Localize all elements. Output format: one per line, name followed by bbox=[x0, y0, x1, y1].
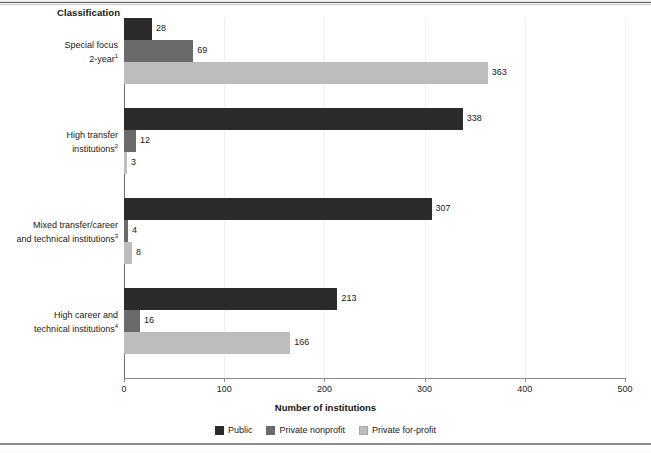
bar-private-nonprofit-0 bbox=[124, 40, 193, 62]
x-axis-tick-label: 0 bbox=[121, 384, 126, 394]
gridline bbox=[625, 18, 626, 378]
bar-private-nonprofit-3 bbox=[124, 310, 140, 332]
chart-legend: PublicPrivate nonprofitPrivate for-profi… bbox=[0, 425, 651, 435]
bar-value-label: 8 bbox=[136, 247, 141, 257]
gridline bbox=[525, 18, 526, 378]
bar-public-2 bbox=[124, 198, 432, 220]
bar-public-3 bbox=[124, 288, 337, 310]
top-rule bbox=[0, 2, 651, 3]
bar-value-label: 69 bbox=[197, 45, 207, 55]
legend-swatch-icon bbox=[359, 426, 368, 435]
bar-private-for-profit-2 bbox=[124, 242, 132, 264]
legend-swatch-icon bbox=[215, 426, 224, 435]
bar-value-label: 4 bbox=[132, 225, 137, 235]
bar-value-label: 12 bbox=[140, 135, 150, 145]
x-axis-tick-label: 400 bbox=[517, 384, 532, 394]
legend-label: Private nonprofit bbox=[279, 425, 345, 435]
x-axis-title: Number of institutions bbox=[0, 402, 651, 413]
bar-value-label: 213 bbox=[341, 293, 356, 303]
category-label-group: Special focus2-year1High transferinstitu… bbox=[0, 18, 118, 378]
legend-item-private-for-profit[interactable]: Private for-profit bbox=[359, 425, 436, 435]
bar-public-0 bbox=[124, 18, 152, 40]
bottom-rule bbox=[0, 443, 651, 445]
legend-label: Public bbox=[228, 425, 253, 435]
legend-item-public[interactable]: Public bbox=[215, 425, 253, 435]
bar-private-for-profit-1 bbox=[124, 152, 127, 174]
bar-public-1 bbox=[124, 108, 463, 130]
bar-private-for-profit-3 bbox=[124, 332, 290, 354]
category-label-1: High transferinstitutions2 bbox=[66, 130, 118, 154]
x-axis-tick bbox=[625, 378, 626, 382]
x-axis-line bbox=[124, 378, 626, 379]
classification-axis-title: Classification bbox=[57, 7, 120, 18]
x-axis-tick-label: 200 bbox=[317, 384, 332, 394]
x-axis-tick bbox=[124, 378, 125, 382]
x-axis-tick-label: 500 bbox=[617, 384, 632, 394]
x-axis-tick-label: 100 bbox=[217, 384, 232, 394]
legend-item-private-nonprofit[interactable]: Private nonprofit bbox=[266, 425, 345, 435]
bar-value-label: 338 bbox=[467, 113, 482, 123]
bottom-clip-band bbox=[0, 447, 651, 453]
bar-value-label: 307 bbox=[436, 203, 451, 213]
bar-private-for-profit-0 bbox=[124, 62, 488, 84]
legend-label: Private for-profit bbox=[372, 425, 436, 435]
bar-private-nonprofit-2 bbox=[124, 220, 128, 242]
x-axis-tick bbox=[324, 378, 325, 382]
x-axis-tick bbox=[224, 378, 225, 382]
x-axis-tick bbox=[525, 378, 526, 382]
bar-value-label: 363 bbox=[492, 67, 507, 77]
category-label-0: Special focus2-year1 bbox=[64, 40, 118, 64]
category-label-3: High career andtechnical institutions4 bbox=[34, 310, 118, 334]
bar-private-nonprofit-1 bbox=[124, 130, 136, 152]
bar-value-label: 3 bbox=[131, 157, 136, 167]
bar-value-label: 166 bbox=[294, 337, 309, 347]
x-axis-tick-label: 300 bbox=[417, 384, 432, 394]
category-label-2: Mixed transfer/careerand technical insti… bbox=[17, 220, 118, 244]
top-rule-secondary bbox=[0, 4, 651, 5]
bar-value-label: 28 bbox=[156, 23, 166, 33]
cut-off-footnote-text bbox=[2, 446, 4, 452]
legend-swatch-icon bbox=[266, 426, 275, 435]
bar-value-label: 16 bbox=[144, 315, 154, 325]
x-axis-tick bbox=[425, 378, 426, 382]
